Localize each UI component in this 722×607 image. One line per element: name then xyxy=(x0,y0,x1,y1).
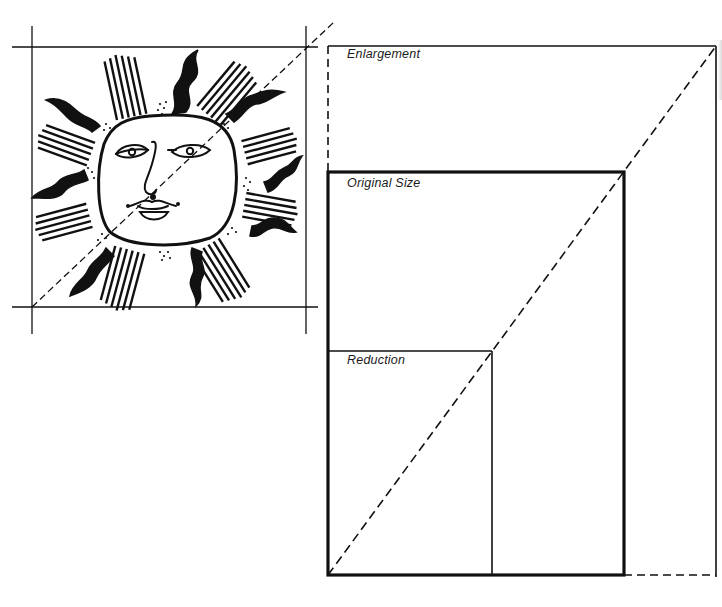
scaling-diagonal xyxy=(328,46,716,575)
reduction-label: Reduction xyxy=(347,353,405,367)
original-size-label: Original Size xyxy=(347,176,420,190)
sun-artwork xyxy=(12,22,334,334)
diagram-svg xyxy=(0,0,722,607)
page-edge-shadow xyxy=(718,40,722,100)
scaling-diagram xyxy=(328,46,716,577)
sun-face-disc xyxy=(99,115,237,245)
enlargement-label: Enlargement xyxy=(347,47,420,61)
reduction-rectangle xyxy=(328,351,492,575)
diagram-canvas: Enlargement Original Size Reduction xyxy=(0,0,722,607)
